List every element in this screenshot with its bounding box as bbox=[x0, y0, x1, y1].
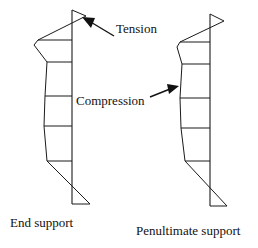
tension-arrow bbox=[82, 17, 114, 36]
end-support-bottom-diagonal bbox=[47, 161, 90, 204]
compression-arrow bbox=[150, 84, 179, 97]
diagram-canvas bbox=[0, 0, 258, 248]
compression-arrow-head bbox=[167, 84, 179, 94]
penultimate-support-tension-lobe bbox=[180, 14, 224, 42]
penultimate-support-diagram bbox=[177, 14, 227, 206]
tension-arrow-head bbox=[82, 17, 95, 28]
tension-label: Tension bbox=[116, 22, 157, 35]
penultimate-support-caption: Penultimate support bbox=[136, 224, 240, 237]
penultimate-support-upper-wedge bbox=[177, 42, 182, 64]
penultimate-support-bottom-diagonal bbox=[185, 161, 227, 206]
compression-arrow-shaft bbox=[150, 89, 170, 97]
end-support-upper-wedge bbox=[34, 40, 47, 62]
end-support-caption: End support bbox=[10, 216, 73, 229]
compression-label: Compression bbox=[76, 94, 145, 107]
end-support-body-edge bbox=[44, 62, 47, 161]
penultimate-support-body-edge bbox=[180, 64, 185, 161]
end-support-tension-lobe bbox=[38, 10, 86, 40]
stress-distribution-figure: Tension Compression End support Penultim… bbox=[0, 0, 258, 248]
